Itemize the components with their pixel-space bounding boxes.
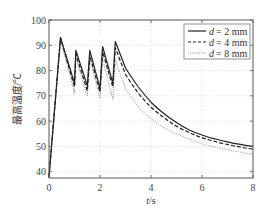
x-tick-label: 4 — [149, 182, 154, 193]
x-tick-label: 6 — [200, 182, 205, 193]
line-chart: 02468 405060708090100 t/s 最高温度/℃ d= 2 mm… — [0, 0, 266, 220]
y-axis-label: 最高温度/℃ — [11, 73, 23, 126]
y-tick-label: 50 — [36, 141, 46, 152]
figure-caption-faint — [38, 206, 258, 216]
y-tick-label: 40 — [36, 166, 46, 177]
x-axis-label: t/s — [146, 195, 156, 206]
x-tick-label: 0 — [47, 182, 52, 193]
y-tick-label: 70 — [36, 90, 46, 101]
legend: d= 2 mm d= 4 mm d= 8 mm — [184, 24, 250, 59]
y-tick-label: 100 — [31, 15, 46, 26]
y-tick-label: 60 — [36, 116, 46, 127]
x-tick-label: 8 — [251, 182, 256, 193]
y-tick-label: 90 — [36, 40, 46, 51]
y-tick-label: 80 — [36, 65, 46, 76]
x-tick-label: 2 — [98, 182, 103, 193]
